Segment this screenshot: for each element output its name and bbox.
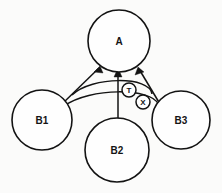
- node-b3-label: B3: [175, 115, 188, 126]
- node-t-label: T: [127, 86, 132, 95]
- node-b2[interactable]: B2: [85, 118, 149, 182]
- node-b1-label: B1: [36, 115, 49, 126]
- node-x[interactable]: X: [136, 95, 150, 109]
- node-t[interactable]: T: [122, 83, 136, 97]
- node-a[interactable]: A: [88, 10, 150, 72]
- node-x-label: X: [140, 98, 146, 107]
- diagram-svg: A B1 B2 B3 T: [0, 0, 222, 193]
- node-layer: A B1 B2 B3: [12, 10, 210, 182]
- node-a-label: A: [115, 36, 122, 47]
- node-b1[interactable]: B1: [12, 90, 72, 150]
- mediator-layer: T X: [122, 83, 150, 109]
- node-b2-label: B2: [111, 145, 124, 156]
- diagram-canvas: A B1 B2 B3 T: [0, 0, 222, 193]
- node-b3[interactable]: B3: [152, 91, 210, 149]
